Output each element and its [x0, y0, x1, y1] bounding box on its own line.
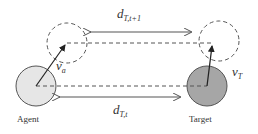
- agent-label: Agent: [17, 114, 39, 124]
- top-distance-label: dT,t+1: [117, 6, 141, 23]
- target-velocity-label: vT: [232, 64, 242, 81]
- agent-velocity-label: va: [56, 58, 66, 75]
- target-next-position: [199, 21, 239, 61]
- target-label: Target: [189, 114, 212, 124]
- agent-target-diagram: dT,t+1 dT,t va vT Agent Target: [0, 0, 258, 134]
- bottom-distance-label: dT,t: [113, 102, 128, 119]
